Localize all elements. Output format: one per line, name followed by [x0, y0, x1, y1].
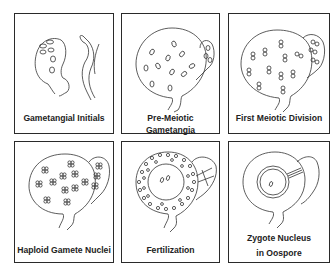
caption-gametangial-initials: Gametangial Initials — [15, 112, 113, 124]
caption-zygote-nucleus-line2: in Oospore — [229, 247, 329, 259]
panel-gametangial-initials: Gametangial Initials — [14, 13, 114, 134]
panel-fertilization: Fertilization — [121, 141, 220, 263]
caption-pre-meiotic-gametangia: Pre-Meiotic Gametangia — [122, 112, 219, 136]
panel-pre-meiotic-gametangia: Pre-Meiotic Gametangia — [121, 13, 220, 134]
caption-fertilization: Fertilization — [122, 244, 219, 256]
panel-first-meiotic-division: First Meiotic Division — [228, 13, 330, 134]
caption-haploid-gamete-nuclei: Haploid Gamete Nuclei — [15, 244, 113, 256]
panel-zygote-nucleus: Zygote Nucleus in Oospore — [228, 141, 330, 263]
caption-first-meiotic-division: First Meiotic Division — [229, 112, 329, 124]
caption-zygote-nucleus-line1: Zygote Nucleus — [229, 232, 329, 244]
zygote-nucleus-illustration — [229, 142, 331, 264]
panel-haploid-gamete-nuclei: Haploid Gamete Nuclei — [14, 141, 114, 263]
